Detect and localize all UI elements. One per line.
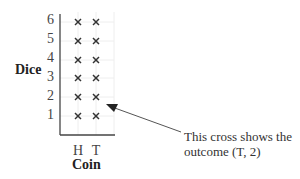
ytick-3: 3 <box>40 70 54 84</box>
grid-lines <box>60 12 114 135</box>
ytick-1: 1 <box>40 108 54 122</box>
ytick-4: 4 <box>40 51 54 65</box>
annotation-line-1: This cross shows the <box>184 129 300 144</box>
xtick-t: T <box>89 144 103 158</box>
cross-markers <box>75 19 99 119</box>
x-axis-label: Coin <box>72 158 101 172</box>
ytick-6: 6 <box>40 13 54 27</box>
axes <box>60 14 115 135</box>
annotation-text: This cross shows the outcome (T, 2) <box>184 129 300 159</box>
annotation-arrow <box>106 104 181 132</box>
xtick-h: H <box>71 144 85 158</box>
ytick-2: 2 <box>40 89 54 103</box>
y-axis-label: Dice <box>15 63 41 77</box>
ytick-5: 5 <box>40 32 54 46</box>
annotation-line-2: outcome (T, 2) <box>184 144 300 159</box>
